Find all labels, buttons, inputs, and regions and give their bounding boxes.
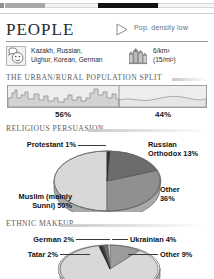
religion-label-orthodox-line-1: Russian [148,140,177,149]
ethnic-label-ukrainian: Ukrainian 4% [130,235,176,244]
atlas-people-page: PEOPLE Pop. density low Kazakh, Russian,… [0,0,214,279]
languages-line-2: Uighur, Korean, German [31,55,102,64]
religion-label-protestant: Protestant 1% [4,140,76,149]
religion-label-other-line-1: Other [160,185,180,194]
edge-hairline-rule [0,13,214,14]
section-title-urban-rural: THE URBAN/RURAL POPULATION SPLIT [6,73,162,82]
rural-percent-label: 44% [119,110,207,119]
section-rule [88,129,208,132]
urban-rural-chart [7,85,207,108]
ethnic-label-other: Other 9% [160,250,192,259]
religion-label-muslim: Muslim (mainly Sunni) 50% [0,192,72,210]
page-title: PEOPLE [6,20,74,39]
urban-rural-graphic [8,86,206,107]
page-edge-bar [0,3,214,8]
religion-label-orthodox: Russian Orthodox 13% [148,140,198,158]
languages-line-1: Kazakh, Russian, [31,46,102,55]
header-rule [6,41,208,42]
edge-segment-gray [5,3,45,8]
leader-line-protestant [78,145,106,146]
leader-line-german [76,239,110,240]
density-line-1: 6/km² [153,46,176,55]
religion-label-muslim-line-1: Muslim (mainly [19,192,72,201]
city-buildings-icon [128,46,148,66]
urban-rural-labels: 56% 44% [7,110,207,121]
ethnic-pie-chart [58,243,162,279]
leader-line-other [128,254,158,255]
edge-segment-black [98,3,158,8]
leader-line-ukrainian [112,239,128,240]
edge-segment-gray-dark [0,3,4,8]
section-header-urban-rural: THE URBAN/RURAL POPULATION SPLIT [6,74,208,83]
section-header-religion: RELIGIOUS PERSUASION [6,125,208,134]
ethnic-label-tatar: Tatar 2% [4,250,58,259]
section-rule [172,78,208,81]
religion-label-other-line-2: 36% [160,194,175,203]
section-header-ethnic: ETHNIC MAKEUP [6,220,208,229]
religion-label-orthodox-line-2: Orthodox 13% [148,149,198,158]
page-header: PEOPLE Pop. density low [6,20,208,41]
facts-row: Kazakh, Russian, Uighur, Korean, German … [6,45,210,69]
ethnic-label-german: German 2% [14,235,74,244]
speech-bubble-face-icon [6,46,26,66]
ethnic-pie-graphic [58,243,162,279]
languages-text: Kazakh, Russian, Uighur, Korean, German [31,46,102,64]
density-text: 6/km² (15/mi²) [153,46,176,64]
density-line-2: (15/mi²) [153,55,176,64]
leader-line-tatar [60,254,90,255]
triangle-marker-icon [116,23,128,36]
edge-segment-light-right [158,3,214,8]
urban-percent-label: 56% [7,110,119,119]
section-rule [60,224,208,227]
pop-density-note: Pop. density low [134,24,188,31]
religion-label-other: Other 36% [160,185,180,203]
religion-label-muslim-line-2: Sunni) 50% [32,201,72,210]
